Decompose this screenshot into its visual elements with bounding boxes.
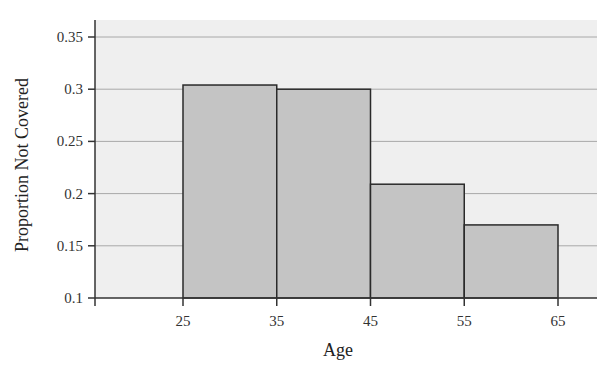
x-tick-label: 25 [176,313,191,329]
x-axis-ticks: 2535455565 [95,298,566,329]
x-tick-label: 55 [457,313,472,329]
histogram-chart: 0.10.150.20.250.30.35 2535455565 Age Pro… [0,0,597,372]
x-tick-label: 65 [551,313,566,329]
y-tick-label: 0.15 [57,238,83,254]
y-axis-label: Proportion Not Covered [12,78,32,252]
y-tick-label: 0.35 [57,29,83,45]
x-axis-label: Age [323,340,353,360]
y-axis-ticks: 0.10.150.20.250.30.35 [57,29,95,306]
x-tick-label: 35 [269,313,284,329]
histogram-bar [183,85,277,298]
y-tick-label: 0.2 [64,186,83,202]
x-tick-label: 45 [363,313,378,329]
y-tick-label: 0.3 [64,81,83,97]
y-tick-label: 0.1 [64,290,83,306]
y-tick-label: 0.25 [57,133,83,149]
histogram-bar [464,225,558,298]
histogram-bar [277,89,371,298]
histogram-bar [371,184,465,298]
